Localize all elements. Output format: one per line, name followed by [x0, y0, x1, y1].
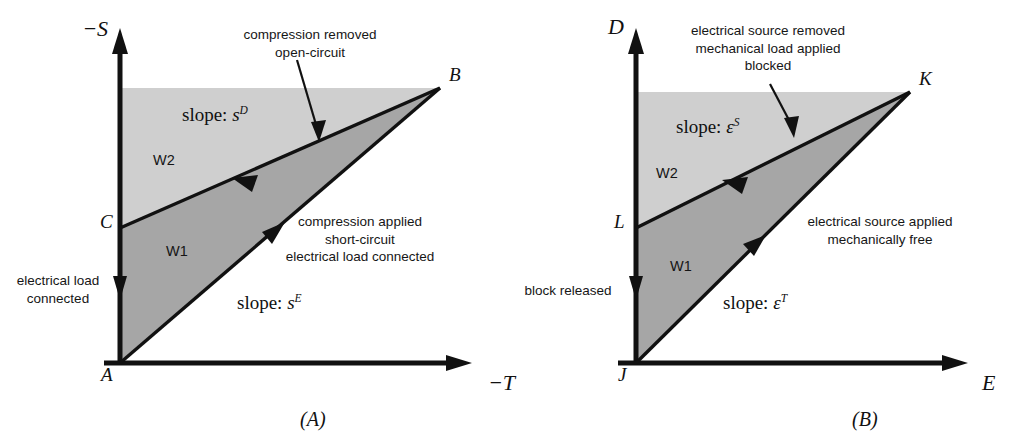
panel-a-vertex-b: B [449, 64, 461, 86]
panel-a: −S −T A B C W2 W1 slope: sD slope: sE co… [0, 0, 518, 447]
panel-b-annotation-left-line1: block released [524, 282, 611, 300]
panel-a-annotation-right: compression applied short-circuit electr… [286, 213, 435, 266]
panel-a-annotation-right-line2: short-circuit [286, 231, 435, 249]
panel-b-slope-lower-prefix: slope: [723, 292, 768, 313]
panel-b-annotation-right-line2: mechanically free [808, 231, 953, 249]
panel-b-slope-lower: slope: εT [723, 292, 787, 314]
panel-a-vertex-a: A [101, 364, 113, 386]
panel-a-y-axis-label: −S [82, 16, 108, 42]
panel-a-graphic [0, 0, 518, 447]
panel-b-x-axis-label: E [982, 370, 995, 396]
panel-b-slope-upper-superscript: S [734, 116, 740, 128]
panel-a-x-axis-label: −T [488, 370, 515, 396]
x-axis-arrowhead [942, 355, 968, 371]
panel-a-slope-lower-superscript: E [295, 292, 302, 304]
panel-b-y-axis-label: D [608, 14, 624, 40]
panel-b-slope-lower-symbol: ε [773, 292, 781, 313]
panel-a-vertex-c: C [100, 211, 113, 233]
panel-b-slope-upper-prefix: slope: [676, 116, 721, 137]
x-axis-arrowhead [446, 355, 472, 371]
panel-b-slope-upper-symbol: ε [726, 116, 734, 137]
y-axis-arrowhead [628, 28, 644, 54]
panel-b-slope-lower-superscript: T [781, 292, 787, 304]
panel-a-annotation-left-line1: electrical load [17, 272, 100, 290]
panel-b-slope-upper: slope: εS [676, 116, 739, 138]
panel-b-vertex-l: L [614, 211, 625, 233]
panel-a-slope-upper: slope: sD [182, 104, 248, 126]
panel-b-region-w2-label: W2 [656, 165, 678, 181]
panel-a-annotation-left: electrical load connected [17, 272, 100, 307]
panel-b-annotation-top-line2: mechanical load applied [691, 40, 845, 58]
panel-b-annotation-right-line1: electrical source applied [808, 213, 953, 231]
panel-a-annotation-top-line1: compression removed [244, 26, 377, 44]
panel-b-region-w1-label: W1 [670, 258, 692, 274]
panel-a-slope-upper-prefix: slope: [182, 104, 227, 125]
panel-a-slope-lower-prefix: slope: [237, 292, 282, 313]
panel-b-annotation-right: electrical source applied mechanically f… [808, 213, 953, 248]
panel-a-slope-upper-symbol: s [232, 104, 239, 125]
y-axis-arrowhead [112, 28, 128, 54]
panel-b-annotation-left: block released [524, 282, 611, 300]
panel-a-region-w2-label: W2 [153, 152, 175, 168]
panel-a-caption: (A) [300, 408, 326, 431]
panel-b-caption: (B) [852, 408, 878, 431]
panel-b-annotation-top-line1: electrical source removed [691, 22, 845, 40]
panel-b: D E J K L W2 W1 slope: εS slope: εT elec… [518, 0, 1036, 447]
panel-a-slope-upper-superscript: D [240, 104, 248, 116]
panel-a-slope-lower-symbol: s [287, 292, 294, 313]
panel-a-annotation-right-line3: electrical load connected [286, 248, 435, 266]
panel-a-slope-lower: slope: sE [237, 292, 302, 314]
panel-a-annotation-left-line2: connected [17, 290, 100, 308]
panel-b-annotation-top: electrical source removed mechanical loa… [691, 22, 845, 75]
panel-b-vertex-k: K [919, 68, 932, 90]
panel-a-annotation-right-line1: compression applied [286, 213, 435, 231]
panel-a-region-w1-label: W1 [166, 243, 188, 259]
panel-b-vertex-j: J [618, 364, 626, 386]
panel-a-annotation-top-line2: open-circuit [244, 44, 377, 62]
panel-b-annotation-top-line3: blocked [691, 57, 845, 75]
panel-a-annotation-top: compression removed open-circuit [244, 26, 377, 61]
